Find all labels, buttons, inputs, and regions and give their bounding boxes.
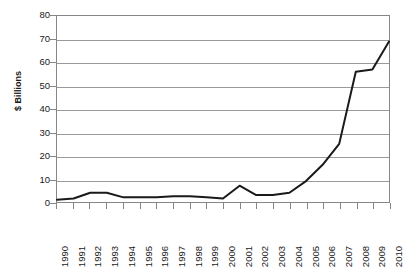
x-tick-mark: [357, 203, 358, 209]
x-tick-mark: [89, 203, 90, 209]
x-tick-label: 1996: [160, 246, 170, 267]
x-axis-tick-labels: 1990199119921993199419951996199719981999…: [56, 210, 390, 249]
x-tick-mark: [173, 203, 174, 209]
x-tick-mark: [223, 203, 224, 209]
x-tick-label: 1993: [110, 246, 120, 267]
x-tick-mark: [140, 203, 141, 209]
x-axis-tick-marks: [56, 203, 390, 210]
x-tick-mark: [106, 203, 107, 209]
x-tick-label: 2001: [244, 246, 254, 267]
x-tick-mark: [273, 203, 274, 209]
x-tick-label: 1992: [93, 246, 103, 267]
x-tick-label: 2006: [327, 246, 337, 267]
x-tick-label: 2003: [277, 246, 287, 267]
x-tick-label: 2005: [311, 246, 321, 267]
x-tick-mark: [240, 203, 241, 209]
y-tick-label: 50: [18, 81, 50, 91]
y-tick-mark: [50, 203, 56, 204]
y-tick-label: 20: [18, 151, 50, 161]
x-tick-mark: [340, 203, 341, 209]
y-tick-mark: [50, 180, 56, 181]
y-tick-label: 60: [18, 57, 50, 67]
x-tick-mark: [190, 203, 191, 209]
y-tick-mark: [50, 133, 56, 134]
y-tick-mark: [50, 62, 56, 63]
y-tick-mark: [50, 15, 56, 16]
y-tick-label: 40: [18, 104, 50, 114]
y-tick-label: 10: [18, 175, 50, 185]
x-tick-label: 1997: [177, 246, 187, 267]
x-tick-mark: [123, 203, 124, 209]
series-polyline: [57, 42, 389, 200]
x-tick-mark: [323, 203, 324, 209]
x-tick-label: 1991: [77, 246, 87, 267]
x-tick-label: 1990: [60, 246, 70, 267]
x-tick-mark: [390, 203, 391, 209]
x-tick-label: 2004: [294, 246, 304, 267]
x-tick-mark: [290, 203, 291, 209]
y-axis-tick-labels: 01020304050607080: [18, 0, 50, 249]
x-tick-mark: [373, 203, 374, 209]
x-tick-mark: [73, 203, 74, 209]
x-tick-mark: [156, 203, 157, 209]
x-tick-label: 1999: [210, 246, 220, 267]
x-tick-label: 2010: [394, 246, 404, 267]
y-tick-mark: [50, 109, 56, 110]
x-tick-label: 2000: [227, 246, 237, 267]
plot-area: [56, 15, 390, 203]
x-tick-mark: [256, 203, 257, 209]
x-tick-label: 2009: [377, 246, 387, 267]
series-line-dollar-billions: [57, 16, 389, 202]
x-tick-mark: [307, 203, 308, 209]
x-tick-label: 2008: [361, 246, 371, 267]
y-tick-label: 30: [18, 128, 50, 138]
y-tick-label: 70: [18, 34, 50, 44]
x-tick-label: 2002: [260, 246, 270, 267]
y-tick-mark: [50, 156, 56, 157]
y-tick-label: 0: [18, 198, 50, 208]
y-tick-mark: [50, 86, 56, 87]
x-tick-label: 1994: [127, 246, 137, 267]
x-tick-mark: [56, 203, 57, 209]
y-tick-label: 80: [18, 10, 50, 20]
y-tick-mark: [50, 39, 56, 40]
x-tick-label: 2007: [344, 246, 354, 267]
x-tick-label: 1998: [194, 246, 204, 267]
x-tick-mark: [206, 203, 207, 209]
x-tick-label: 1995: [144, 246, 154, 267]
